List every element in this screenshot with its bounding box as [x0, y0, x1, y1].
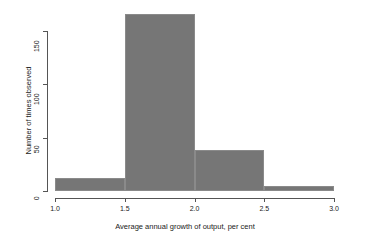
histogram-bar: [195, 150, 265, 191]
histogram-bar: [125, 14, 195, 191]
x-axis-tick: [55, 198, 56, 202]
histogram-bar: [264, 186, 334, 191]
y-axis-line: [47, 31, 48, 192]
x-axis-tick: [125, 198, 126, 202]
y-axis-tick: [43, 31, 47, 32]
y-axis-tick-label: 50: [33, 145, 40, 153]
y-axis-tick-label: 100: [33, 94, 40, 106]
x-axis-tick: [334, 198, 335, 202]
x-axis-tick-label: 1.5: [120, 205, 130, 213]
x-axis-tick: [264, 198, 265, 202]
y-axis-tick-label: 0: [33, 196, 40, 200]
x-axis-tick-label: 2.0: [190, 205, 200, 213]
y-axis-title: Number of times observed: [24, 31, 33, 191]
x-axis-tick-label: 3.0: [329, 205, 339, 213]
histogram-figure: 050100150 Number of times observed 1.01.…: [0, 0, 370, 244]
x-axis-tick-label: 1.0: [50, 205, 60, 213]
plot-area: 050100150 Number of times observed 1.01.…: [0, 0, 370, 244]
x-axis-tick-label: 2.5: [259, 205, 269, 213]
y-axis-tick: [43, 84, 47, 85]
histogram-bar: [55, 178, 125, 191]
y-axis-tick-label: 150: [33, 40, 40, 52]
y-axis-tick-label-wrap: 0: [26, 191, 40, 192]
y-axis-tick: [43, 138, 47, 139]
y-axis-tick: [43, 191, 47, 192]
x-axis-title: Average annual growth of output, per cen…: [0, 222, 370, 231]
x-axis-tick: [195, 198, 196, 202]
